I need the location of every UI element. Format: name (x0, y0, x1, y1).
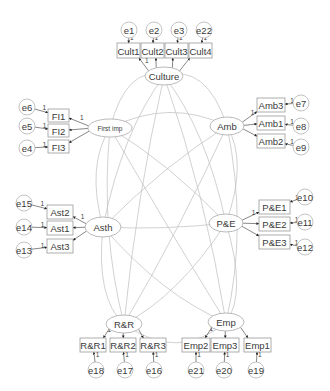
error-label: e7 (296, 98, 307, 109)
error-term: e3 (171, 22, 187, 38)
indicator-box: P&E2 (259, 217, 290, 231)
error-label: e9 (296, 142, 307, 153)
indicator-label: Amb2 (259, 136, 284, 147)
error-term: e19 (248, 362, 264, 378)
error-label: e22 (196, 25, 212, 36)
fixed-loading-label: 1 (251, 109, 255, 116)
error-label: e13 (16, 245, 32, 256)
error-label: e10 (297, 192, 313, 203)
latent-asth: Asth (85, 217, 121, 237)
indicator-label: Ast3 (50, 241, 69, 252)
indicator-label: FI1 (52, 111, 66, 122)
latent-emp: Emp (208, 313, 244, 331)
error-label: e4 (22, 143, 33, 154)
error-term: e9 (293, 139, 309, 155)
latent-label: Asth (93, 222, 112, 233)
indicator-label: R&R2 (110, 340, 135, 351)
error-term: e14 (16, 219, 32, 235)
indicator-label: Cult2 (141, 46, 163, 57)
loading-path (73, 231, 87, 240)
indicator-box: Cult2 (141, 43, 164, 58)
error-label: e21 (188, 365, 204, 376)
indicator-label: Cult3 (165, 46, 187, 57)
indicator-box: Cult1 (117, 43, 140, 58)
loading-path (69, 118, 89, 126)
error-term: e8 (293, 118, 309, 134)
indicator-box: Emp1 (244, 338, 271, 352)
indicator-label: Amb3 (259, 100, 284, 111)
indicator-label: Emp3 (213, 340, 238, 351)
latent-culture: Culture (145, 67, 183, 85)
latent-firstimp: First imp (88, 119, 132, 137)
indicator-label: FI3 (52, 142, 66, 153)
covariance-arc (103, 227, 226, 322)
covariance-arc (226, 126, 237, 223)
indicator-label: Ast2 (50, 207, 69, 218)
indicator-label: Amb1 (259, 118, 284, 129)
indicator-label: Emp1 (245, 340, 270, 351)
indicator-label: Ast1 (50, 223, 69, 234)
error-label: e5 (22, 121, 33, 132)
sem-diagram: 11111111111111111111111111111 Cult1Cult2… (0, 0, 330, 391)
error-term: e7 (293, 95, 309, 111)
error-path-label: 1 (43, 141, 47, 148)
error-label: e12 (297, 242, 313, 253)
covariance-arc (226, 223, 237, 322)
indicator-label: Cult4 (189, 46, 211, 57)
nodes: Cult1Cult2Cult3Cult4FI1FI2FI3Amb3Amb1Amb… (16, 22, 313, 378)
indicator-label: P&E3 (262, 237, 286, 248)
error-path-label: 1 (41, 200, 45, 207)
latent-label: Amb (217, 121, 237, 132)
error-term: e11 (297, 214, 313, 230)
loading-path (241, 327, 248, 338)
indicator-box: Amb3 (257, 98, 285, 112)
fixed-loading-label: 1 (252, 209, 256, 216)
error-term: e22 (196, 22, 212, 38)
error-term: e6 (19, 99, 35, 115)
covariance-arc (164, 76, 226, 223)
latent-label: First imp (98, 125, 123, 133)
loading-path (244, 124, 257, 125)
indicator-box: R&R2 (110, 338, 136, 352)
indicator-box: Ast3 (47, 239, 73, 253)
indicator-label: Cult1 (117, 46, 139, 57)
error-label: e1 (124, 25, 135, 36)
error-term: e15 (16, 195, 32, 211)
error-label: e14 (16, 222, 32, 233)
indicator-box: Ast1 (47, 221, 73, 235)
error-path (32, 205, 47, 209)
indicator-box: Emp3 (211, 338, 239, 352)
indicator-box: R&R1 (80, 338, 106, 352)
error-path-label: 1 (43, 122, 47, 129)
covariance-arc (164, 76, 226, 322)
loading-path (180, 58, 190, 71)
covariance-arcs (96, 74, 237, 343)
indicator-box: Cult3 (165, 43, 188, 58)
error-term: e5 (19, 118, 35, 134)
indicator-box: Amb2 (257, 134, 285, 148)
error-label: e11 (297, 217, 312, 228)
indicator-label: P&E2 (262, 219, 286, 230)
indicator-box: Ast2 (47, 205, 73, 219)
error-label: e19 (248, 365, 264, 376)
error-label: e2 (149, 25, 160, 36)
error-label: e15 (16, 198, 32, 209)
error-path (32, 247, 47, 249)
loading-path (69, 128, 88, 130)
indicator-box: FI3 (48, 140, 69, 153)
error-term: e20 (216, 362, 232, 378)
latent-label: Emp (216, 317, 236, 328)
covariance-arc (103, 126, 227, 227)
error-path-label: 1 (41, 242, 45, 249)
indicator-label: P&E1 (262, 202, 286, 213)
latent-rr: R&R (106, 315, 142, 333)
latent-pe: P&E (209, 214, 243, 232)
indicator-label: FI2 (52, 126, 66, 137)
indicator-label: Emp2 (184, 340, 209, 351)
loading-path (69, 131, 89, 143)
indicator-box: Emp2 (182, 338, 210, 352)
indicator-label: R&R1 (80, 340, 105, 351)
indicator-box: FI2 (48, 124, 69, 137)
latent-amb: Amb (210, 117, 244, 135)
error-term: e13 (16, 242, 32, 258)
